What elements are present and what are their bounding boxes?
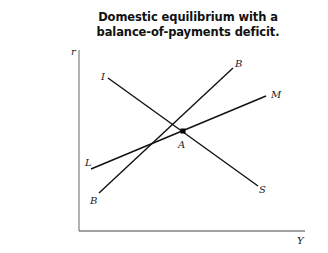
is-curve-end-label: S xyxy=(259,184,266,195)
equilibrium-point-a xyxy=(181,129,186,134)
lm-curve-start-label: L xyxy=(84,157,92,168)
diagram-canvas: r Y I S B B L M A xyxy=(0,0,328,253)
bb-curve-bottom-label: B xyxy=(89,195,97,206)
lm-curve-end-label: M xyxy=(270,89,282,100)
x-axis-label: Y xyxy=(297,235,305,246)
point-a-label: A xyxy=(177,139,185,150)
bb-curve-top-label: B xyxy=(234,58,242,69)
lm-curve xyxy=(91,96,266,169)
is-curve-start-label: I xyxy=(100,71,106,82)
y-axis-label: r xyxy=(71,46,77,57)
